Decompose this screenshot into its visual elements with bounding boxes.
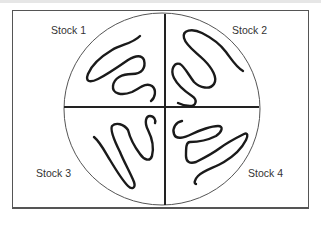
petri-dish (0, 0, 321, 225)
label-stock-2: Stock 2 (232, 24, 267, 36)
label-stock-1: Stock 1 (51, 24, 86, 36)
label-stock-3: Stock 3 (36, 167, 71, 179)
streak-stock-3 (94, 116, 155, 188)
streak-stock-1 (87, 36, 155, 101)
streak-stock-4 (173, 121, 247, 184)
dish-outline (64, 13, 260, 205)
label-stock-4: Stock 4 (248, 167, 283, 179)
